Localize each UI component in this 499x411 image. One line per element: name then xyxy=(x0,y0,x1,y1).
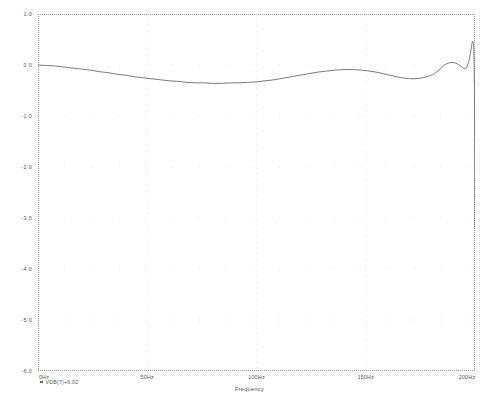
y-tick-label: -6.0 xyxy=(2,368,32,374)
x-tick-label: 100Hz xyxy=(248,374,265,380)
y-tick-label: -5.0 xyxy=(2,317,32,323)
legend-marker-icon xyxy=(40,381,43,384)
data-curve xyxy=(38,41,475,228)
y-tick-label: -2.0 xyxy=(2,164,32,170)
frequency-response-chart: 1.00.0-1.0-2.0-3.0-4.0-5.0-6.0 0Hz50Hz10… xyxy=(0,0,499,411)
y-tick-label: -3.0 xyxy=(2,215,32,221)
chart-legend[interactable]: VDB(7)+6.02 xyxy=(40,379,78,385)
y-tick-label: 1.0 xyxy=(2,11,32,17)
y-tick-label: -1.0 xyxy=(2,113,32,119)
legend-label: VDB(7)+6.02 xyxy=(46,379,79,385)
y-tick-label: -4.0 xyxy=(2,266,32,272)
x-tick-label: 50Hz xyxy=(141,374,154,380)
y-tick-label: 0.0 xyxy=(2,62,32,68)
data-curves xyxy=(38,41,475,228)
chart-canvas xyxy=(0,0,499,411)
gridlines xyxy=(38,14,475,371)
x-tick-label: 200Hz xyxy=(459,374,476,380)
x-axis-title: Frequency xyxy=(0,386,499,392)
x-tick-label: 150Hz xyxy=(357,374,374,380)
